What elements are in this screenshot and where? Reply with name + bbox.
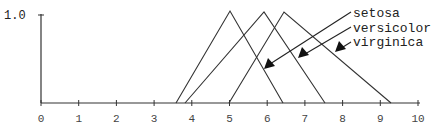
fuzzy-membership-chart: 1.0 0 1 2 3 4 5 6 7 8 9 10 bbox=[0, 0, 439, 134]
x-tick-label: 2 bbox=[113, 113, 120, 125]
x-tick-label: 7 bbox=[302, 113, 309, 125]
label-virginica: virginica bbox=[353, 35, 423, 50]
x-tick-label: 3 bbox=[151, 113, 158, 125]
x-tick-label: 1 bbox=[75, 113, 82, 125]
x-tick-label: 5 bbox=[226, 113, 233, 125]
x-tick-label: 4 bbox=[188, 113, 195, 125]
y-tick-label-1: 1.0 bbox=[4, 9, 26, 23]
annotation-arrows bbox=[264, 12, 351, 69]
x-tick-label: 9 bbox=[377, 113, 384, 125]
label-versicolor: versicolor bbox=[353, 21, 431, 36]
series-setosa-triangle bbox=[176, 11, 283, 103]
x-tick-label: 6 bbox=[264, 113, 271, 125]
label-setosa: setosa bbox=[353, 6, 400, 21]
x-tick-labels: 0 1 2 3 4 5 6 7 8 9 10 bbox=[38, 113, 425, 125]
setosa-arrow-line bbox=[270, 12, 351, 64]
setosa-arrowhead-icon bbox=[264, 58, 275, 69]
virginica-arrow-line bbox=[343, 42, 351, 47]
series-versicolor-triangle bbox=[185, 12, 325, 103]
x-tick-label: 0 bbox=[38, 113, 45, 125]
x-tick-label: 8 bbox=[339, 113, 346, 125]
x-tick-label: 10 bbox=[411, 113, 424, 125]
